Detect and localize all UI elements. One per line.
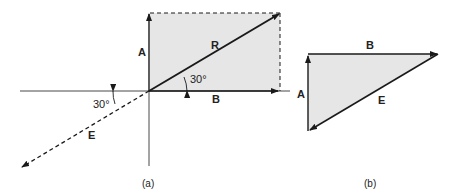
label-a-b: A [297, 88, 305, 100]
label-b-b: B [366, 39, 374, 51]
label-b: B [212, 93, 220, 105]
label-r: R [211, 39, 219, 51]
angle-arc-e [113, 91, 115, 104]
figure-b: B A E (b) [297, 39, 438, 189]
vector-diagram: A R B E 30° 30° (a) B A E (b) [0, 0, 458, 195]
label-e: E [88, 129, 95, 141]
caption-a: (a) [142, 178, 154, 189]
label-e-b: E [378, 94, 385, 106]
angle-label-e: 30° [93, 98, 110, 110]
figure-a: A R B E 30° 30° (a) [20, 13, 290, 189]
angle-label-r: 30° [190, 73, 207, 85]
vector-e-arrow [22, 91, 149, 167]
caption-b: (b) [364, 178, 376, 189]
label-a: A [138, 46, 146, 58]
